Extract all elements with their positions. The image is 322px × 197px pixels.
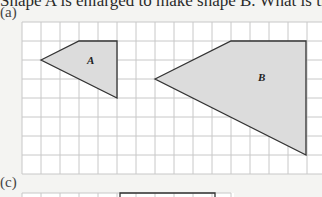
shape-label-B: B xyxy=(257,71,265,83)
grid-figure: AB xyxy=(0,0,322,197)
shape-label-A: A xyxy=(86,54,94,66)
part-c-label: (c) xyxy=(0,174,17,191)
grid-c xyxy=(22,193,234,197)
